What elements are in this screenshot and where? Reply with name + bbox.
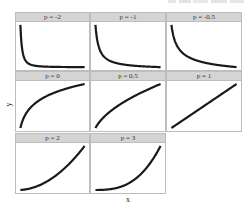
facet-strip-label: p = 2 [16,134,89,143]
y-axis-label: y [4,103,13,107]
facet-strip-label: p = -1 [91,13,165,22]
plot-area [16,143,89,193]
facet-strip-label: p = 1 [167,72,241,81]
cut-off-text-fragment [168,0,244,3]
curve-line [171,25,236,67]
curve-line [20,84,84,128]
facet-strip-label: p = -2 [16,13,89,22]
facet-strip-label: p = 0.5 [91,72,165,81]
facet-panel: p = -2 [15,12,90,71]
plot-area [16,81,89,131]
facet-panel: p = 3 [90,133,166,194]
facet-panel: p = 2 [15,133,90,194]
x-axis-label: x [126,195,130,204]
plot-area [91,143,165,193]
curve-line [95,146,160,190]
curve-line [95,25,160,67]
facet-panel: p = 1 [166,71,242,132]
plot-area [16,22,89,70]
plot-area [91,81,165,131]
facet-strip-label: p = 3 [91,134,165,143]
facet-panel: p = -1 [90,12,166,71]
curve-line [20,146,84,190]
curve-line [20,25,84,67]
facet-strip-label: p = 0 [16,72,89,81]
curve-line [95,84,160,128]
facet-panel: p = 0 [15,71,90,132]
curve-line [171,84,236,128]
facet-panel: p = 0.5 [90,71,166,132]
plot-area [167,22,241,70]
facet-panel: p = -0.5 [166,12,242,71]
plot-area [167,81,241,131]
plot-area [91,22,165,70]
facet-strip-label: p = -0.5 [167,13,241,22]
